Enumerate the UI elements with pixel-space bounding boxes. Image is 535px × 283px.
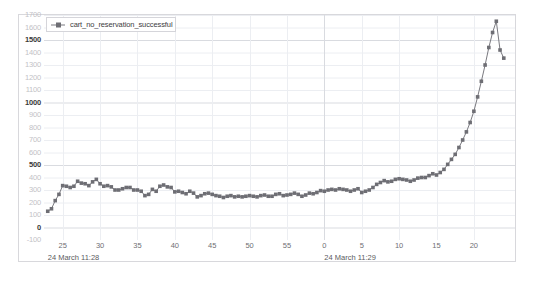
x-axis-tick-label: 15 — [432, 241, 440, 251]
y-axis-tick-label: 1600 — [25, 24, 41, 32]
y-axis-tick-label: -100 — [27, 236, 41, 244]
y-axis-tick-label: 1400 — [25, 49, 41, 57]
x-axis: 2530354045505505101520 — [44, 241, 515, 253]
plot-area — [44, 15, 515, 240]
y-axis-tick-label: 600 — [29, 149, 41, 157]
y-axis-tick-label: 100 — [29, 211, 41, 219]
x-axis-tick-label: 30 — [96, 241, 104, 251]
x-axis-tick-label: 0 — [322, 241, 326, 251]
y-axis-tick-label: 1100 — [26, 86, 41, 94]
y-axis-tick-label: 800 — [29, 124, 41, 132]
x-axis-tick-label: 50 — [245, 241, 253, 251]
x-axis-tick-label: 10 — [395, 241, 403, 251]
x-axis-tick-label: 20 — [470, 241, 478, 251]
y-axis-tick-label: 700 — [29, 136, 41, 144]
x-axis-tick-label: 25 — [59, 241, 67, 251]
legend-item-label: cart_no_reservation_successful — [70, 20, 172, 29]
x-axis-tick-label: 5 — [360, 241, 364, 251]
y-axis-tick-label: 500 — [29, 161, 41, 169]
x-axis-period-label: 24 March 11:28 — [48, 253, 100, 262]
y-axis-tick-label: 0 — [37, 224, 41, 232]
x-axis-tick-label: 40 — [171, 241, 179, 251]
y-axis-tick-label: 200 — [29, 199, 41, 207]
line-chart-widget: 1700160015001400130012001100100090080070… — [0, 0, 535, 283]
x-axis-tick-label: 45 — [208, 241, 216, 251]
y-axis-tick-label: 900 — [29, 111, 41, 119]
y-axis-tick-label: 300 — [29, 186, 41, 194]
y-axis: 1700160015001400130012001100100090080070… — [19, 15, 44, 240]
y-axis-tick-label: 1700 — [25, 11, 41, 19]
x-axis-tick-label: 55 — [283, 241, 291, 251]
x-axis-period-label: 24 March 11:29 — [324, 253, 376, 262]
x-axis-tick-label: 35 — [133, 241, 141, 251]
y-axis-tick-label: 1000 — [25, 99, 41, 107]
chart-legend[interactable]: cart_no_reservation_successful — [46, 17, 176, 32]
y-axis-tick-label: 1200 — [25, 74, 41, 82]
y-axis-tick-label: 1300 — [25, 61, 41, 69]
series-line-cart-no-reservation-successful[interactable] — [44, 15, 515, 240]
y-axis-tick-label: 400 — [29, 174, 41, 182]
square-line-marker-icon — [51, 21, 65, 29]
y-axis-tick-label: 1500 — [25, 36, 41, 44]
